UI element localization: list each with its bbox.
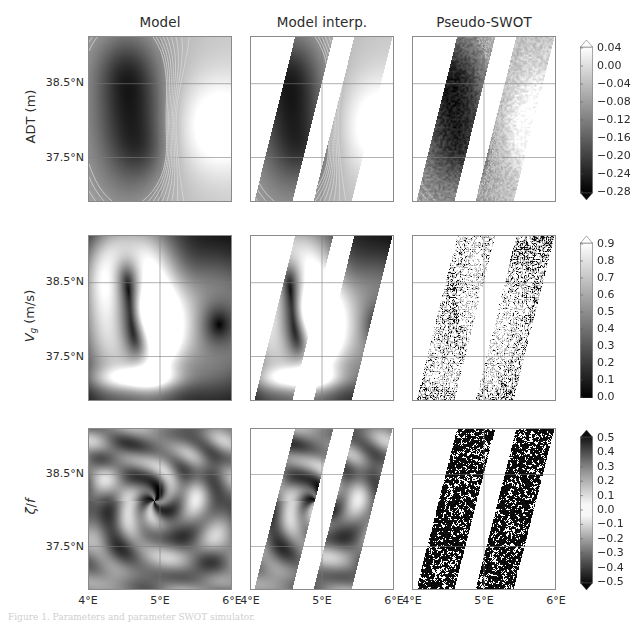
panel-contours-adt-model xyxy=(89,37,231,201)
ytick-zeta-f-0: 38.5°N xyxy=(26,467,84,480)
colorbar-tick-cbar-vg-9: 0.0 xyxy=(597,390,615,403)
colorbar-tick-cbar-zeta-10: −0.5 xyxy=(597,575,624,588)
row-label-zeta-f: ζ/f xyxy=(23,477,38,537)
xtick-pseudo-swot-1: 5°E xyxy=(462,594,506,607)
column-title-model-interp: Model interp. xyxy=(250,14,394,30)
colorbar-tick-cbar-adt-0: 0.04 xyxy=(597,41,622,54)
colorbar-tick-cbar-adt-8: −0.28 xyxy=(597,185,631,198)
ytick-adt-0: 38.5°N xyxy=(26,76,84,89)
panel-zeta-f-pseudo-swot xyxy=(412,428,556,590)
colorbar-tick-cbar-vg-1: 0.8 xyxy=(597,254,615,267)
column-title-model: Model xyxy=(88,14,232,30)
panel-grid-zeta-f-model-interp xyxy=(251,429,393,589)
panel-vg-model-interp xyxy=(250,235,394,401)
colorbar-gradient-cbar-vg xyxy=(580,236,593,398)
panel-zeta-f-model-interp xyxy=(250,428,394,590)
panel-adt-pseudo-swot xyxy=(412,36,556,202)
xtick-model-interp-1: 5°E xyxy=(300,594,344,607)
colorbar-tick-cbar-adt-3: −0.08 xyxy=(597,95,631,108)
panel-grid-zeta-f-pseudo-swot xyxy=(413,429,555,589)
panel-contours-adt-pseudo-swot xyxy=(413,37,555,201)
colorbar-tick-cbar-zeta-7: −0.2 xyxy=(597,532,624,545)
panel-adt-model-interp xyxy=(250,36,394,202)
colorbar-tick-cbar-zeta-5: 0.0 xyxy=(597,503,615,516)
colorbar-tick-cbar-vg-3: 0.6 xyxy=(597,288,615,301)
panel-vg-pseudo-swot xyxy=(412,235,556,401)
colorbar-tick-cbar-adt-1: 0.00 xyxy=(597,59,622,72)
xtick-pseudo-swot-0: 4°E xyxy=(390,594,434,607)
panel-adt-model xyxy=(88,36,232,202)
panel-zeta-f-model xyxy=(88,428,232,590)
column-title-pseudo-swot: Pseudo-SWOT xyxy=(412,14,556,30)
panel-contours-adt-model-interp xyxy=(251,37,393,201)
figure-caption: Figure 1. Parameters and parameter SWOT … xyxy=(8,612,626,622)
colorbar-tick-cbar-zeta-6: −0.1 xyxy=(597,517,624,530)
panel-grid-vg-model-interp xyxy=(251,236,393,400)
row-label-vg: Vg (m/s) xyxy=(22,286,38,346)
xtick-pseudo-swot-2: 6°E xyxy=(534,594,578,607)
colorbar-tick-cbar-zeta-1: 0.4 xyxy=(597,445,615,458)
ytick-adt-1: 37.5°N xyxy=(26,151,84,164)
colorbar-cbar-vg xyxy=(580,236,593,398)
colorbar-tick-cbar-adt-6: −0.20 xyxy=(597,149,631,162)
colorbar-tick-cbar-vg-8: 0.1 xyxy=(597,373,615,386)
colorbar-tick-cbar-adt-2: −0.04 xyxy=(597,77,631,90)
panel-vg-model xyxy=(88,235,232,401)
colorbar-tick-cbar-vg-6: 0.3 xyxy=(597,339,615,352)
colorbar-tick-cbar-vg-7: 0.2 xyxy=(597,356,615,369)
row-label-adt: ADT (m) xyxy=(23,87,38,147)
colorbar-cbar-zeta xyxy=(580,430,593,590)
colorbar-tick-cbar-adt-7: −0.24 xyxy=(597,167,631,180)
xtick-model-interp-0: 4°E xyxy=(228,594,272,607)
colorbar-tick-cbar-vg-5: 0.4 xyxy=(597,322,615,335)
xtick-model-0: 4°E xyxy=(66,594,110,607)
colorbar-tick-cbar-vg-4: 0.5 xyxy=(597,305,615,318)
figure-root: ModelModel interp.Pseudo-SWOTADT (m)Vg (… xyxy=(0,0,634,629)
colorbar-tick-cbar-zeta-0: 0.5 xyxy=(597,431,615,444)
colorbar-tick-cbar-zeta-3: 0.2 xyxy=(597,474,615,487)
colorbar-tick-cbar-vg-2: 0.7 xyxy=(597,271,615,284)
colorbar-gradient-cbar-adt xyxy=(580,40,593,200)
ytick-vg-1: 37.5°N xyxy=(26,350,84,363)
ytick-zeta-f-1: 37.5°N xyxy=(26,540,84,553)
colorbar-gradient-cbar-zeta xyxy=(580,430,593,590)
colorbar-tick-cbar-adt-4: −0.12 xyxy=(597,113,631,126)
colorbar-tick-cbar-zeta-4: 0.1 xyxy=(597,489,615,502)
colorbar-tick-cbar-vg-0: 0.9 xyxy=(597,237,615,250)
colorbar-tick-cbar-zeta-9: −0.4 xyxy=(597,561,624,574)
panel-grid-vg-model xyxy=(89,236,231,400)
colorbar-tick-cbar-zeta-2: 0.3 xyxy=(597,460,615,473)
panel-grid-vg-pseudo-swot xyxy=(413,236,555,400)
colorbar-tick-cbar-adt-5: −0.16 xyxy=(597,131,631,144)
panel-grid-zeta-f-model xyxy=(89,429,231,589)
colorbar-tick-cbar-zeta-8: −0.3 xyxy=(597,546,624,559)
xtick-model-1: 5°E xyxy=(138,594,182,607)
ytick-vg-0: 38.5°N xyxy=(26,275,84,288)
colorbar-cbar-adt xyxy=(580,40,593,200)
